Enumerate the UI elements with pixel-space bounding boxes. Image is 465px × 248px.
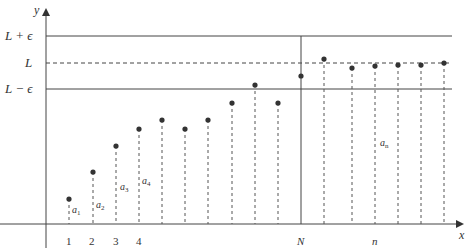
x-tick-2: 2 [89,235,95,247]
x-tick-n: n [372,235,378,247]
x-tick-1: 1 [66,235,72,247]
term-label-a3: a3 [120,181,129,194]
x-tick-3: 3 [113,235,119,247]
limit-label: L [24,55,32,70]
sequence-points [66,56,446,201]
term-label-a4: a4 [142,175,151,188]
x-axis-label: x [458,228,465,242]
term-label-a2: a2 [96,199,105,212]
sequence-convergence-diagram: y x L + ϵ L L − ϵ [0,0,465,248]
x-tick-4: 4 [136,235,142,247]
lower-bound-label: L − ϵ [4,81,33,96]
term-label-a1: a1 [72,204,81,217]
upper-bound-label: L + ϵ [4,28,33,43]
term-label-an: an [380,137,389,150]
x-tick-N: N [296,235,305,247]
y-axis-label: y [33,3,40,17]
